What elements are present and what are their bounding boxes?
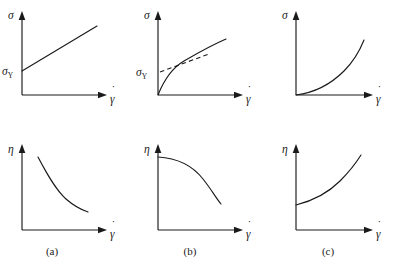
y-axis-label-sigma: σ (8, 9, 15, 21)
y-axis-label-sigma: σ (144, 9, 151, 21)
panel-c-stress-chart: σ γ ˙ (282, 9, 381, 106)
caption-a: (a) (46, 245, 59, 258)
shear-thinning-viscosity-curve (158, 157, 221, 204)
y-axis-label-eta: η (282, 143, 288, 156)
herschel-bulkley-curve (158, 39, 226, 95)
y-axis-label-eta: η (8, 143, 14, 156)
dilatant-curve (296, 40, 364, 95)
x-axis-gamma-dot-accent: ˙ (378, 84, 382, 96)
panel-a-stress-chart: σ σY γ ˙ (2, 9, 115, 106)
yield-stress-label: σY (136, 66, 148, 81)
y-axis-arrowhead (155, 11, 162, 20)
x-axis-arrowhead (98, 227, 107, 234)
y-axis-label-sigma: σ (282, 9, 289, 21)
extrapolated-yield-asymptote (160, 54, 209, 72)
x-axis-arrowhead (364, 92, 373, 99)
x-axis-gamma-dot-accent: ˙ (112, 84, 116, 96)
x-axis-arrowhead (234, 92, 243, 99)
bingham-plastic-line (22, 26, 97, 71)
shear-thickening-viscosity-curve (296, 155, 361, 205)
panel-b-viscosity-chart: η γ ˙ (b) (144, 143, 251, 258)
x-axis-gamma-dot-accent: ˙ (248, 84, 252, 96)
y-axis-arrowhead (155, 144, 162, 153)
caption-c: (c) (322, 245, 335, 258)
x-axis-gamma-dot-accent: ˙ (248, 219, 252, 231)
x-axis-gamma-dot-accent: ˙ (112, 219, 116, 231)
panel-a-viscosity-chart: η γ ˙ (a) (8, 143, 115, 258)
y-axis-arrowhead (19, 144, 26, 153)
x-axis-gamma-dot-accent: ˙ (378, 219, 382, 231)
y-axis-arrowhead (293, 11, 300, 20)
yield-stress-label: σY (2, 65, 14, 80)
x-axis-arrowhead (98, 92, 107, 99)
shear-thinning-viscosity-curve (38, 157, 88, 212)
panel-c-viscosity-chart: η γ ˙ (c) (282, 143, 381, 258)
x-axis-arrowhead (364, 227, 373, 234)
caption-b: (b) (184, 245, 197, 258)
x-axis-arrowhead (234, 227, 243, 234)
rheology-figure: σ σY γ ˙ σ σY γ ˙ σ γ ˙ η γ ˙ (a) (0, 0, 403, 262)
y-axis-arrowhead (293, 144, 300, 153)
panel-b-stress-chart: σ σY γ ˙ (136, 9, 251, 106)
y-axis-label-eta: η (144, 143, 150, 156)
y-axis-arrowhead (19, 11, 26, 20)
